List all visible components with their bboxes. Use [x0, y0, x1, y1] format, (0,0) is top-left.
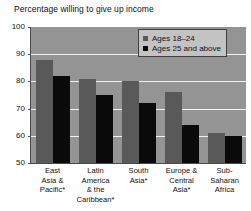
bar [182, 125, 199, 163]
bar [139, 103, 156, 163]
bar [208, 133, 225, 163]
x-axis-labels: EastAsia &Pacific*LatinAmerica& theCarib… [31, 166, 246, 211]
y-tick-label-60: 60 [16, 132, 25, 140]
x-axis-label: Sub-SaharanAfrica [203, 166, 246, 195]
bar [96, 95, 113, 163]
x-axis-line [30, 163, 246, 164]
bar [79, 79, 96, 163]
legend-swatch-icon-young [143, 36, 148, 41]
bar-chart: Percentage willing to give up income 100… [0, 0, 251, 211]
legend-item-older: Ages 25 and above [143, 43, 221, 53]
bar [53, 76, 70, 163]
chart-legend: Ages 18–24 Ages 25 and above [138, 29, 227, 57]
bar [165, 92, 182, 163]
legend-label-young: Ages 18–24 [152, 34, 195, 43]
legend-item-young: Ages 18–24 [143, 33, 221, 43]
x-axis-label: LatinAmerica& theCaribbean* [74, 166, 117, 204]
y-axis: 1009080706050 [0, 27, 31, 163]
bar [122, 81, 139, 163]
bar-group [79, 27, 113, 163]
bar [225, 136, 242, 163]
x-axis-label: EastAsia &Pacific* [31, 166, 74, 195]
chart-title: Percentage willing to give up income [14, 4, 154, 15]
y-tick-label-80: 80 [16, 77, 25, 85]
x-axis-label: SouthAsia* [117, 166, 160, 185]
y-tick-label-70: 70 [16, 105, 25, 113]
y-tick-label-90: 90 [16, 50, 25, 58]
legend-label-older: Ages 25 and above [152, 44, 221, 53]
y-tick-label-100: 100 [12, 23, 25, 31]
y-tick-label-50: 50 [16, 159, 25, 167]
bar [36, 60, 53, 163]
bar-group [36, 27, 70, 163]
x-axis-label: Europe &CentralAsia* [160, 166, 203, 195]
legend-swatch-icon-older [143, 46, 148, 51]
